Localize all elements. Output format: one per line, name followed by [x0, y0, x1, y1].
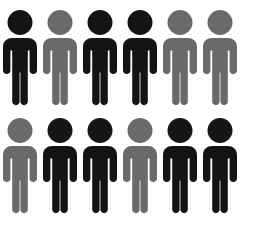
person-pictogram: [40, 8, 80, 108]
pictogram-grid: [0, 0, 258, 228]
pictogram-body: [43, 146, 77, 213]
pictogram-body: [163, 38, 197, 105]
pictogram-head: [208, 118, 233, 143]
pictogram-body: [43, 38, 77, 105]
pictogram-head: [8, 10, 33, 35]
pictogram-body: [163, 146, 197, 213]
pictogram-body: [203, 146, 237, 213]
pictogram-body: [83, 146, 117, 213]
pictogram-head: [128, 118, 153, 143]
person-pictogram: [80, 116, 120, 216]
pictogram-head: [168, 118, 193, 143]
person-pictogram: [0, 116, 40, 216]
person-pictogram: [120, 116, 160, 216]
person-pictogram: [120, 8, 160, 108]
pictogram-head: [48, 10, 73, 35]
pictogram-head: [168, 10, 193, 35]
pictogram-body: [123, 146, 157, 213]
pictogram-head: [88, 118, 113, 143]
pictogram-body: [3, 38, 37, 105]
person-pictogram: [200, 8, 240, 108]
person-pictogram: [200, 116, 240, 216]
pictogram-head: [128, 10, 153, 35]
pictogram-body: [83, 38, 117, 105]
pictogram-head: [48, 118, 73, 143]
person-pictogram: [40, 116, 80, 216]
pictogram-head: [208, 10, 233, 35]
person-pictogram: [0, 8, 40, 108]
pictogram-head: [88, 10, 113, 35]
pictogram-body: [123, 38, 157, 105]
pictogram-body: [3, 146, 37, 213]
person-pictogram: [160, 8, 200, 108]
pictogram-row: [0, 8, 258, 108]
person-pictogram: [160, 116, 200, 216]
pictogram-row: [0, 116, 258, 216]
pictogram-head: [8, 118, 33, 143]
person-pictogram: [80, 8, 120, 108]
pictogram-body: [203, 38, 237, 105]
